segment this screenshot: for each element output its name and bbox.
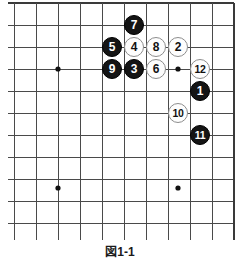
board-grid <box>0 0 240 240</box>
go-stone-white-move-2: 2 <box>168 37 188 57</box>
go-stone-black-move-7: 7 <box>124 15 144 35</box>
stone-move-number: 2 <box>175 41 181 53</box>
figure-caption: 図1-1 <box>0 244 240 259</box>
stone-move-number: 1 <box>197 85 203 97</box>
stone-move-number: 7 <box>131 19 137 31</box>
go-stone-black-move-9: 9 <box>102 59 122 79</box>
go-stone-white-move-10: 10 <box>168 103 188 123</box>
star-point <box>175 185 180 190</box>
stone-move-number: 6 <box>153 63 159 75</box>
go-diagram-figure: 754829361211011 図1-1 <box>0 0 240 259</box>
star-point <box>55 66 60 71</box>
stone-move-number: 5 <box>109 41 115 53</box>
go-stone-white-move-4: 4 <box>124 37 144 57</box>
stone-move-number: 8 <box>153 41 159 53</box>
stone-move-number: 12 <box>194 63 205 74</box>
go-stone-white-move-12: 12 <box>190 59 210 79</box>
go-stone-black-move-11: 11 <box>190 125 210 145</box>
stone-move-number: 9 <box>109 63 115 75</box>
go-stone-black-move-3: 3 <box>124 59 144 79</box>
stone-move-number: 11 <box>195 129 206 140</box>
go-stone-white-move-6: 6 <box>146 59 166 79</box>
stone-move-number: 10 <box>172 107 183 118</box>
stone-move-number: 4 <box>131 41 137 53</box>
stone-move-number: 3 <box>131 63 137 75</box>
go-stone-black-move-1: 1 <box>190 81 210 101</box>
star-point <box>175 66 180 71</box>
go-stone-black-move-5: 5 <box>102 37 122 57</box>
star-point <box>55 185 60 190</box>
go-board <box>0 0 240 240</box>
go-stone-white-move-8: 8 <box>146 37 166 57</box>
